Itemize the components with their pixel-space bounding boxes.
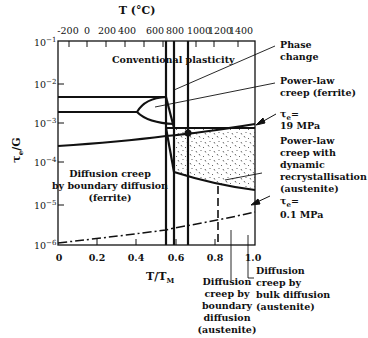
x-axis-title: T/TM — [146, 270, 174, 285]
svg-text:bulk diffusion: bulk diffusion — [256, 289, 330, 300]
label-plc-ferrite: Power-law creep (ferrite) — [280, 75, 356, 98]
svg-text:10−5: 10−5 — [34, 199, 56, 211]
label-phase-change: Phase change — [280, 39, 318, 62]
svg-text:creep with: creep with — [280, 147, 336, 158]
svg-text:creep by: creep by — [205, 288, 250, 299]
svg-text:0: 0 — [56, 252, 63, 263]
svg-text:0.6: 0.6 — [168, 252, 185, 263]
svg-text:0.2: 0.2 — [89, 252, 106, 263]
svg-text:change: change — [280, 51, 318, 62]
svg-text:dynamic: dynamic — [280, 159, 325, 170]
top-axis-ticks — [69, 41, 238, 47]
svg-text:diffusion: diffusion — [203, 312, 250, 323]
svg-text:τe=: τe= — [280, 195, 299, 209]
label-dc-bulk-austenite: Diffusion creep by bulk diffusion (auste… — [256, 265, 330, 312]
svg-text:10−1: 10−1 — [34, 36, 56, 48]
svg-text:1.0: 1.0 — [245, 252, 262, 263]
svg-text:-200: -200 — [57, 25, 78, 36]
svg-text:10−6: 10−6 — [34, 239, 57, 251]
svg-text:Power-law: Power-law — [280, 135, 335, 146]
svg-text:(austenite): (austenite) — [280, 183, 339, 194]
label-dc-ferrite: Diffusion creep by boundary diffusion (f… — [52, 168, 168, 203]
svg-text:1400: 1400 — [229, 25, 253, 36]
svg-text:10−3: 10−3 — [34, 117, 56, 129]
svg-text:400: 400 — [118, 25, 136, 36]
label-plc-drx-austenite: Power-law creep with dynamic recrystalli… — [280, 135, 367, 194]
svg-text:by boundary diffusion: by boundary diffusion — [52, 180, 168, 191]
y-axis-title: τe/G — [10, 137, 25, 162]
svg-text:600: 600 — [146, 25, 164, 36]
svg-text:creep (ferrite): creep (ferrite) — [280, 87, 356, 98]
svg-text:10−2: 10−2 — [34, 78, 56, 90]
svg-text:(austenite): (austenite) — [198, 324, 257, 335]
svg-text:0.4: 0.4 — [128, 252, 145, 263]
svg-text:Power-law: Power-law — [280, 75, 335, 86]
deformation-map: T (°C) -200 0 200 400 600 800 1000 1200 … — [0, 0, 368, 338]
svg-text:800: 800 — [166, 25, 184, 36]
label-tau-19mpa: τe= 19 MPa — [280, 108, 320, 131]
svg-text:(austenite): (austenite) — [256, 301, 315, 312]
label-dc-boundary-austenite: Diffusion creep by boundary diffusion (a… — [198, 276, 257, 335]
svg-text:Phase: Phase — [280, 39, 312, 50]
svg-text:creep by: creep by — [256, 277, 301, 288]
top-tick-labels: -200 0 200 400 600 800 1000 1200 1400 — [57, 25, 253, 36]
svg-text:10−4: 10−4 — [34, 156, 57, 168]
svg-text:0: 0 — [84, 25, 90, 36]
svg-text:boundary: boundary — [202, 300, 253, 311]
svg-text:Diffusion: Diffusion — [256, 265, 305, 276]
y-tick-labels: 10−1 10−2 10−3 10−4 10−5 10−6 — [34, 36, 57, 251]
svg-text:200: 200 — [98, 25, 116, 36]
label-tau-0-1mpa: τe= 0.1 MPa — [280, 195, 323, 220]
label-conventional-plasticity: Conventional plasticity — [112, 54, 235, 65]
svg-text:0.1 MPa: 0.1 MPa — [280, 209, 323, 220]
svg-text:Diffusion creep: Diffusion creep — [69, 168, 151, 179]
svg-text:Diffusion: Diffusion — [203, 276, 252, 287]
svg-text:19 MPa: 19 MPa — [280, 120, 320, 131]
svg-text:0.8: 0.8 — [207, 252, 224, 263]
svg-text:(ferrite): (ferrite) — [88, 192, 131, 203]
x-axis-ticks — [97, 239, 215, 245]
contour-0-1-mpa — [58, 212, 255, 243]
top-axis-title: T (°C) — [119, 4, 156, 17]
svg-text:recrystallisation: recrystallisation — [280, 171, 367, 182]
intersection-point — [185, 130, 192, 137]
